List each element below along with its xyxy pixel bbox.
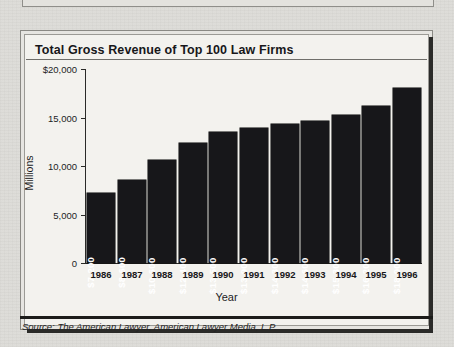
bar-slot: $14,300	[271, 124, 299, 263]
plot-area: 05,00010,00015,000$20,000 Millions $7,20…	[25, 35, 428, 325]
bar-slot: $14,600	[301, 121, 329, 263]
source-divider	[20, 316, 433, 319]
y-axis-title: Millions	[23, 155, 35, 190]
bar-slot: $10,600	[148, 160, 176, 263]
bar-slot: $13,500	[209, 132, 237, 263]
bar[interactable]: $8,600	[118, 180, 146, 263]
chart-panel: Total Gross Revenue of Top 100 Law Firms…	[24, 34, 429, 326]
y-tick-label: $20,000	[25, 64, 77, 75]
y-tick-label: 15,000	[25, 112, 77, 123]
bar[interactable]: $12,400	[179, 143, 207, 263]
x-tick-label: 1994	[329, 269, 363, 280]
bar[interactable]: $13,900	[240, 128, 268, 263]
bar[interactable]: $18,000	[393, 88, 421, 263]
adjacent-panel-edge	[22, 0, 434, 7]
bar[interactable]: $13,500	[209, 132, 237, 263]
x-tick-label: 1986	[84, 269, 118, 280]
bar-slot: $16,200	[362, 106, 390, 263]
bar-slot: $8,600	[118, 180, 146, 263]
bar-slot: $18,000	[393, 88, 421, 263]
x-tick-label: 1988	[145, 269, 179, 280]
bar[interactable]: $14,600	[301, 121, 329, 263]
bar[interactable]: $16,200	[362, 106, 390, 263]
x-axis-line	[85, 263, 422, 264]
chart-figure: Total Gross Revenue of Top 100 Law Firms…	[20, 30, 433, 330]
x-tick-label: 1990	[206, 269, 240, 280]
x-tick-label: 1996	[390, 269, 424, 280]
x-tick-label: 1993	[298, 269, 332, 280]
bar-slot: $12,400	[179, 143, 207, 263]
bar-slot: $7,200	[87, 193, 115, 263]
bar[interactable]: $7,200	[87, 193, 115, 263]
source-note: Source: The American Lawyer, American La…	[22, 321, 277, 332]
x-tick-label: 1991	[237, 269, 271, 280]
bar[interactable]: $14,300	[271, 124, 299, 263]
bar[interactable]: $15,300	[332, 115, 360, 263]
x-tick-label: 1987	[115, 269, 149, 280]
y-tick-label: 0	[25, 258, 77, 269]
bar-slot: $15,300	[332, 115, 360, 263]
x-axis-title: Year	[25, 291, 428, 303]
x-tick-label: 1992	[268, 269, 302, 280]
x-tick-label: 1989	[176, 269, 210, 280]
figure-shadow-right	[429, 37, 433, 333]
x-tick-label: 1995	[359, 269, 393, 280]
bar-series: $7,200$8,600$10,600$12,400$13,500$13,900…	[86, 69, 422, 263]
bar[interactable]: $10,600	[148, 160, 176, 263]
bar-slot: $13,900	[240, 128, 268, 263]
y-tick-label: 5,000	[25, 209, 77, 220]
